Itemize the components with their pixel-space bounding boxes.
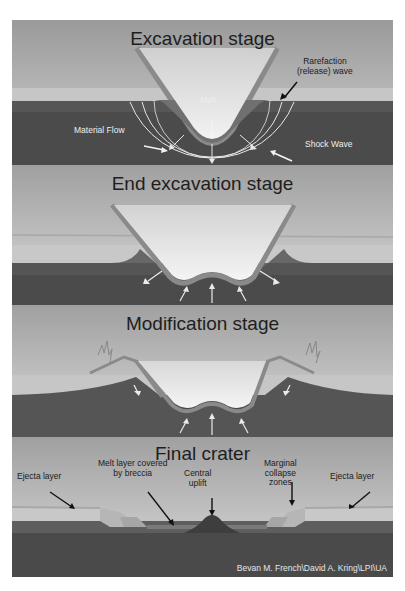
panel-modification: Modification stage (12, 305, 393, 437)
crater-formation-figure: Excavation stage Rarefaction (release) w… (12, 20, 393, 577)
label-melt: Melt (200, 96, 216, 106)
label-central-uplift: Central uplift (184, 469, 211, 488)
label-shock-wave: Shock Wave (305, 140, 352, 150)
panel-title: Modification stage (12, 313, 393, 335)
label-material-flow: Material Flow (74, 126, 125, 136)
image-credit: Bevan M. French\David A. Kring\LPI\UA (237, 563, 387, 573)
panel-title: Excavation stage (12, 28, 393, 50)
label-ejecta-layer-right: Ejecta layer (330, 472, 374, 482)
panel-excavation: Excavation stage Rarefaction (release) w… (12, 20, 393, 165)
panel-title: Final crater (12, 443, 393, 465)
label-ejecta-layer-left: Ejecta layer (17, 472, 61, 482)
panel-title: End excavation stage (12, 173, 393, 195)
label-melt-layer: Melt layer covered by breccia (98, 459, 167, 478)
label-marginal-collapse-zones: Marginal collapse zones (264, 459, 297, 488)
label-rarefaction-wave: Rarefaction (release) wave (297, 57, 353, 76)
panel-end-excavation: End excavation stage (12, 165, 393, 305)
panel-final-crater: Final crater Ejecta layer Melt layer cov… (12, 437, 393, 577)
